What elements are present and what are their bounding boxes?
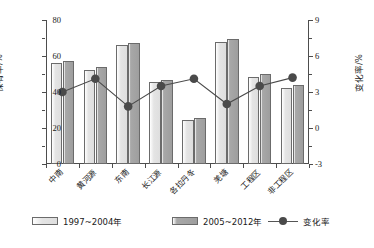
- change-rate-data-point: 黄河源: 4.1: [91, 75, 100, 84]
- y-axis-right-tick: [309, 20, 313, 21]
- y-axis-left-tick-label: 40: [53, 88, 62, 97]
- change-rate-data-point: 长江源: 3.5: [157, 82, 166, 91]
- x-axis-category-labels: 中南黄河源东南长江源各拉丹冬羌塘工程区非工程区: [46, 166, 309, 210]
- legend-label: 2005~2012年: [203, 215, 262, 227]
- y-axis-right-tick-label: 6: [315, 52, 319, 61]
- y-axis-right-title: 变化率/%: [352, 54, 364, 92]
- x-axis-label-5: 各拉丹冬: [168, 168, 197, 197]
- legend-label: 1997~2004年: [63, 215, 122, 227]
- chart-container: 保有率/% 变化率/% 中南: 3黄河源: 4.1东南: 1.8长江源: 3.5…: [0, 0, 374, 248]
- y-axis-left-minor-tick: [42, 38, 45, 39]
- y-axis-left-tick-label: 80: [53, 16, 62, 25]
- x-axis-label-3: 东南: [113, 168, 131, 186]
- legend-swatch-icon: [32, 217, 58, 225]
- y-axis-right-tick-label: 0: [315, 124, 319, 133]
- y-axis-left-minor-tick: [42, 74, 45, 75]
- y-axis-right-tick-label: 9: [315, 16, 319, 25]
- legend-line-marker-icon: [268, 216, 298, 226]
- y-axis-right-tick: [309, 92, 313, 93]
- legend-item-2[interactable]: 2005~2012年: [172, 214, 262, 228]
- change-rate-data-point: 工程区: 3.5: [255, 82, 264, 91]
- y-axis-right-tick-label: -3: [315, 160, 322, 169]
- y-axis-left-minor-tick: [42, 110, 45, 111]
- x-axis-label-6: 羌塘: [212, 168, 230, 186]
- x-axis-label-4: 长江源: [140, 168, 163, 191]
- change-rate-data-point: 各拉丹冬: 4.1: [190, 75, 199, 84]
- change-rate-data-point: 非工程区: 4.2: [288, 73, 297, 82]
- change-rate-data-point: 羌塘: 2: [223, 100, 232, 109]
- y-axis-right-minor-tick: [309, 110, 312, 111]
- y-axis-right-tick: [309, 56, 313, 57]
- legend-item-1[interactable]: 1997~2004年: [32, 214, 122, 228]
- x-axis-label-2: 黄河源: [75, 168, 98, 191]
- x-axis-label-7: 工程区: [239, 168, 262, 191]
- y-axis-left-minor-tick: [42, 146, 45, 147]
- y-axis-left-title: 保有率/%: [0, 54, 4, 92]
- y-axis-left-tick-label: 60: [53, 52, 62, 61]
- change-rate-data-point: 东南: 1.8: [124, 102, 133, 111]
- change-rate-line-series: 中南: 3黄河源: 4.1东南: 1.8长江源: 3.5各拉丹冬: 4.1羌塘:…: [46, 20, 309, 164]
- y-axis-right-minor-tick: [309, 38, 312, 39]
- y-axis-left-tick-label: 20: [53, 124, 62, 133]
- legend-item-3[interactable]: 变化率: [268, 214, 330, 228]
- x-axis-label-1: 中南: [47, 168, 65, 186]
- plot-area: 中南: 3黄河源: 4.1东南: 1.8长江源: 3.5各拉丹冬: 4.1羌塘:…: [46, 20, 309, 164]
- y-axis-right-tick: [309, 128, 313, 129]
- x-axis-label-8: 非工程区: [266, 168, 295, 197]
- y-axis-right-minor-tick: [309, 146, 312, 147]
- chart-legend: 1997~2004年2005~2012年变化率: [0, 214, 374, 234]
- legend-swatch-icon: [172, 217, 198, 225]
- x-axis-tick: [309, 164, 310, 168]
- y-axis-right-tick-label: 3: [315, 88, 319, 97]
- legend-label: 变化率: [303, 215, 330, 227]
- y-axis-right-minor-tick: [309, 74, 312, 75]
